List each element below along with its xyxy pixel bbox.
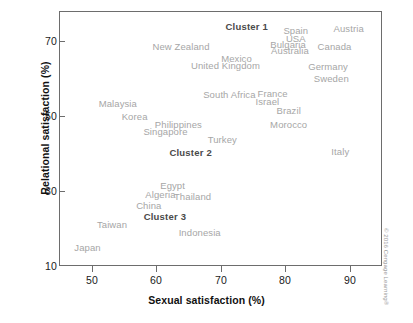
country-label: Morocco [270, 119, 307, 130]
scatter-plot-figure: 70 50 30 10 50 60 70 80 90 Sexual satisf… [0, 0, 413, 323]
x-tick-mark [221, 266, 222, 272]
y-tick-mark [59, 191, 65, 192]
y-axis-title: Relational satisfaction (%) [39, 3, 51, 253]
x-tick-label-80: 80 [279, 274, 291, 286]
x-axis-title: Sexual satisfaction (%) [0, 294, 413, 306]
copyright-credit: © 2016 Cengage Learning® [383, 228, 389, 305]
country-label: United Kingdom [191, 60, 260, 71]
country-label: Canada [318, 40, 352, 51]
x-tick-mark [350, 266, 351, 272]
x-tick-label-50: 50 [86, 274, 98, 286]
country-label: Japan [74, 241, 100, 252]
cluster-label: Cluster 2 [169, 146, 211, 157]
x-tick-mark [156, 266, 157, 272]
country-label: Indonesia [179, 226, 221, 237]
country-label: New Zealand [152, 40, 209, 51]
country-label: Singapore [143, 126, 187, 137]
cluster-label: Cluster 1 [226, 21, 268, 32]
country-label: Thailand [174, 190, 211, 201]
country-label: Italy [331, 145, 349, 156]
x-tick-mark [92, 266, 93, 272]
y-tick-mark [59, 116, 65, 117]
country-label: China [136, 199, 161, 210]
country-label: Turkey [208, 134, 237, 145]
x-tick-label-60: 60 [150, 274, 162, 286]
country-label: Taiwan [97, 219, 127, 230]
country-label: Malaysia [99, 97, 137, 108]
country-label: Brazil [277, 105, 301, 116]
y-tick-mark [59, 41, 65, 42]
country-label: Korea [122, 111, 148, 122]
x-tick-label-90: 90 [344, 274, 356, 286]
x-tick-label-70: 70 [215, 274, 227, 286]
y-tick-label-10: 10 [45, 260, 57, 272]
x-tick-mark [285, 266, 286, 272]
country-label: Austria [334, 22, 364, 33]
country-label: Sweden [314, 72, 349, 83]
country-label: South Africa [203, 88, 255, 99]
cluster-label: Cluster 3 [144, 211, 186, 222]
country-label: Australia [271, 45, 309, 56]
country-label: Germany [308, 61, 348, 72]
